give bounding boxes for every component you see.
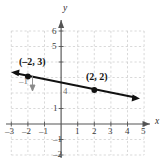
x-tick-label: 1: [75, 127, 80, 136]
x-axis-label: x: [155, 117, 159, 127]
y-axis-label: y: [63, 4, 67, 14]
y-tick-label: 1: [53, 104, 58, 113]
y-tick-label: –1: [53, 135, 62, 144]
point-label-right: (2, 2): [86, 72, 108, 82]
x-tick-label: –1: [39, 127, 48, 136]
stray-four-label: 4: [63, 87, 68, 96]
y-tick-label: 5: [52, 42, 57, 51]
stray-minus-one-label: –1: [19, 77, 28, 86]
x-tick-label: –3: [5, 127, 14, 136]
x-tick-label: 4: [125, 127, 130, 136]
x-tick-label: –2: [22, 127, 31, 136]
x-tick-label: 3: [108, 127, 113, 136]
coordinate-graph-figure: y x –3 –2 –1 1 2 3 4 5 6 5 1 –1 –2 –1 4 …: [0, 0, 167, 164]
point-label-left: (–2, 3): [19, 57, 46, 67]
x-tick-label: 2: [92, 127, 97, 136]
x-tick-label: 5: [141, 127, 146, 136]
stray-arrow-artifact: [30, 76, 35, 91]
y-tick-label: –2: [53, 150, 62, 159]
y-tick-label: 6: [52, 27, 57, 36]
data-point-marker: [91, 87, 97, 93]
